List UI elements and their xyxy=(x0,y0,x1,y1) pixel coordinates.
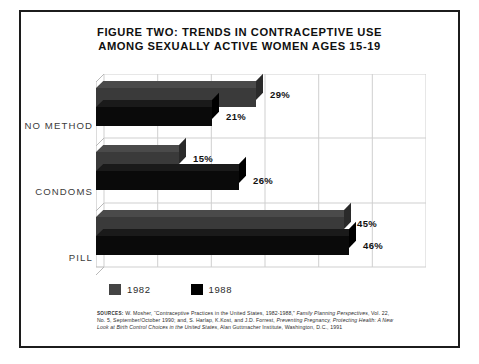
source-text-1: W. Mosher, “Contraceptive Practices in t… xyxy=(124,310,297,316)
legend-swatch-1988-icon xyxy=(191,284,203,295)
bar-front-face xyxy=(96,171,239,190)
bar-front-face xyxy=(96,236,349,255)
category-label-pill: PILL xyxy=(69,252,93,263)
bar-top-face xyxy=(96,229,356,236)
bar-front-face xyxy=(96,107,212,126)
legend-item-1988[interactable]: 1988 xyxy=(191,284,233,295)
bar-value-condoms-1982: 15% xyxy=(193,153,213,164)
legend-label-1988: 1988 xyxy=(209,284,233,295)
source-note: SOURCES: W. Mosher, “Contraceptive Pract… xyxy=(97,310,397,331)
category-label-condoms: CONDOMS xyxy=(35,186,93,197)
page-title: FIGURE TWO: TRENDS IN CONTRACEPTIVE USE … xyxy=(21,25,458,53)
source-italic-1: Family Planning Perspectives xyxy=(297,310,368,316)
bar-value-pill-1988: 46% xyxy=(363,240,383,251)
legend-label-1982: 1982 xyxy=(127,284,151,295)
bar-value-no-method-1988: 21% xyxy=(226,111,246,122)
chart-legend: 1982 1988 xyxy=(109,284,232,295)
bar-condoms-1988[interactable] xyxy=(96,171,239,190)
bar-value-pill-1982: 45% xyxy=(357,218,377,229)
bar-value-no-method-1982: 29% xyxy=(270,89,290,100)
bar-pill-1988[interactable] xyxy=(96,236,349,255)
category-axis-labels: NO METHOD CONDOMS PILL xyxy=(21,74,93,275)
category-label-no-method: NO METHOD xyxy=(24,120,93,131)
legend-swatch-1982-icon xyxy=(109,284,121,295)
figure-frame: FIGURE TWO: TRENDS IN CONTRACEPTIVE USE … xyxy=(19,10,460,348)
title-line-1: FIGURE TWO: TRENDS IN CONTRACEPTIVE USE xyxy=(21,25,458,39)
bar-top-face xyxy=(96,210,351,217)
bar-value-condoms-1988: 26% xyxy=(253,175,273,186)
bar-top-face xyxy=(96,81,263,88)
legend-item-1982[interactable]: 1982 xyxy=(109,284,151,295)
bar-top-face xyxy=(96,145,186,152)
bar-top-face xyxy=(96,164,246,171)
source-lead: SOURCES: xyxy=(97,311,124,316)
title-line-2: AMONG SEXUALLY ACTIVE WOMEN AGES 15-19 xyxy=(21,39,458,53)
chart-plot-area: 29% 21% 15% 26% xyxy=(96,74,426,275)
bar-top-face xyxy=(96,100,219,107)
source-text-3: , Alan Guttmacher Institute, Washington,… xyxy=(217,324,342,330)
bar-no-method-1988[interactable] xyxy=(96,107,212,126)
